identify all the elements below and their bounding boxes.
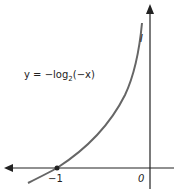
quadrant-label: I [140,34,143,44]
equation-label: y = −log2(−x) [24,70,95,83]
x-tick-neg1: −1 [48,174,63,184]
origin-label: 0 [138,174,144,184]
y-axis-arrow-icon [146,4,154,14]
log-curve [28,23,142,183]
x-axis-arrow-icon [4,164,13,172]
point-neg1-0 [55,166,60,171]
graph-canvas [0,0,174,189]
